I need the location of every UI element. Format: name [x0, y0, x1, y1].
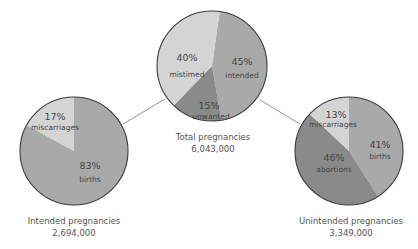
pie-total-pregnancies: 40% mistimed 45% intended 15% unwanted: [157, 11, 267, 121]
title-intended-pregnancies: Intended pregnancies: [28, 216, 121, 226]
pie-unintended-pregnancies: 13% miscarriages 41% births 46% abortion…: [295, 97, 403, 205]
label-abortions-pct: 46%: [323, 152, 344, 163]
connector-line-right: [260, 100, 300, 124]
label-births-pct: 83%: [79, 160, 100, 171]
label-miscarriages-pct: 13%: [325, 109, 346, 120]
count-total-pregnancies: 6,043,000: [191, 144, 234, 154]
label-mistimed: mistimed: [169, 70, 204, 79]
label-miscarriages: miscarriages: [31, 123, 79, 132]
title-total-pregnancies: Total pregnancies: [175, 132, 251, 142]
label-births: births: [79, 175, 101, 184]
pregnancy-outcomes-chart: 40% mistimed 45% intended 15% unwanted T…: [0, 0, 418, 249]
label-miscarriages-pct: 17%: [44, 111, 65, 122]
label-mistimed-pct: 40%: [176, 52, 197, 63]
label-unwanted: unwanted: [192, 112, 230, 121]
count-intended-pregnancies: 2,694,000: [52, 228, 95, 238]
label-births-pct: 41%: [369, 139, 390, 150]
count-unintended-pregnancies: 3,349,000: [329, 228, 372, 238]
label-intended-pct: 45%: [231, 56, 252, 67]
label-births: births: [369, 152, 391, 161]
connector-line-left: [123, 99, 165, 124]
label-intended: intended: [225, 71, 259, 80]
pie-intended-pregnancies: 17% miscarriages 83% births: [20, 97, 128, 205]
label-unwanted-pct: 15%: [198, 100, 219, 111]
label-abortions: abortions: [316, 165, 351, 174]
label-miscarriages: miscarriages: [309, 120, 357, 129]
title-unintended-pregnancies: Unintended pregnancies: [299, 216, 404, 226]
